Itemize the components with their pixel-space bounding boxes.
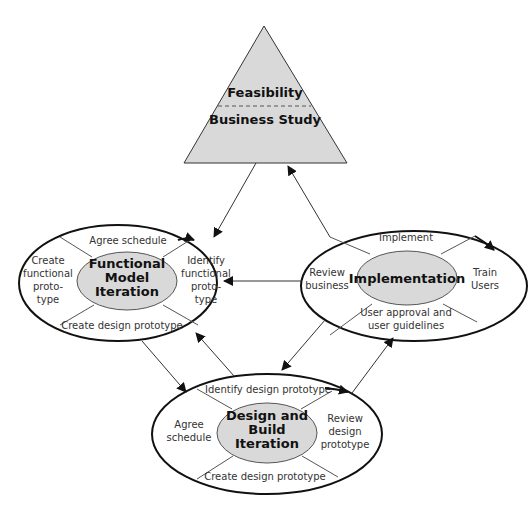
functional-top-label: Agree schedule xyxy=(89,235,166,246)
implementation-left-1: Review xyxy=(309,267,345,278)
arrow-design-to-functional xyxy=(196,333,234,376)
functional-left-4: type xyxy=(37,294,59,305)
implementation-ellipse: Implementation Implement Review business… xyxy=(301,231,527,341)
functional-model-ellipse: Functional Model Iteration Agree schedul… xyxy=(19,225,231,341)
implementation-bottom-1: User approval and xyxy=(360,307,452,318)
design-right-3: prototype xyxy=(321,439,370,450)
functional-title-3: Iteration xyxy=(95,284,159,299)
arrow-design-to-implementation xyxy=(352,338,393,393)
feasibility-label: Feasibility xyxy=(227,85,303,100)
design-bottom-label: Create design prototype xyxy=(204,471,326,482)
design-left-1: Agree xyxy=(174,419,203,430)
dsdm-diagram: Feasibility Business Study Functional Mo… xyxy=(0,0,530,510)
arrow-feasibility-to-functional xyxy=(214,163,256,237)
functional-title-2: Model xyxy=(105,270,149,285)
arrow-implementation-to-design xyxy=(282,320,325,370)
functional-bottom-label: Create design prototype xyxy=(61,320,183,331)
functional-right-1: Identify xyxy=(187,255,225,266)
functional-right-3: proto- xyxy=(191,281,222,292)
implementation-right-2: Users xyxy=(471,280,499,291)
design-title-2: Build xyxy=(248,422,285,437)
implementation-right-1: Train xyxy=(472,267,497,278)
functional-right-4: type xyxy=(195,294,217,305)
implementation-title: Implementation xyxy=(349,271,465,286)
arrow-functional-to-design xyxy=(142,341,186,392)
design-title-3: Iteration xyxy=(235,436,299,451)
implementation-left-2: business xyxy=(305,280,349,291)
design-left-2: schedule xyxy=(167,432,212,443)
functional-left-3: proto- xyxy=(33,281,64,292)
implementation-top-label: Implement xyxy=(379,232,433,243)
implementation-bottom-2: user guidelines xyxy=(368,320,444,331)
design-title-1: Design and xyxy=(226,408,308,423)
design-right-2: design xyxy=(328,426,361,437)
design-top-label: Identify design prototype xyxy=(205,384,331,395)
business-study-label: Business Study xyxy=(209,112,322,127)
arrow-implementation-to-feasibility xyxy=(288,166,330,237)
functional-left-1: Create xyxy=(31,255,64,266)
design-right-1: Review xyxy=(327,413,363,424)
functional-title-1: Functional xyxy=(89,256,166,271)
functional-right-2: functional xyxy=(181,268,231,279)
feasibility-triangle: Feasibility Business Study xyxy=(184,26,347,163)
functional-left-2: functional xyxy=(23,268,73,279)
